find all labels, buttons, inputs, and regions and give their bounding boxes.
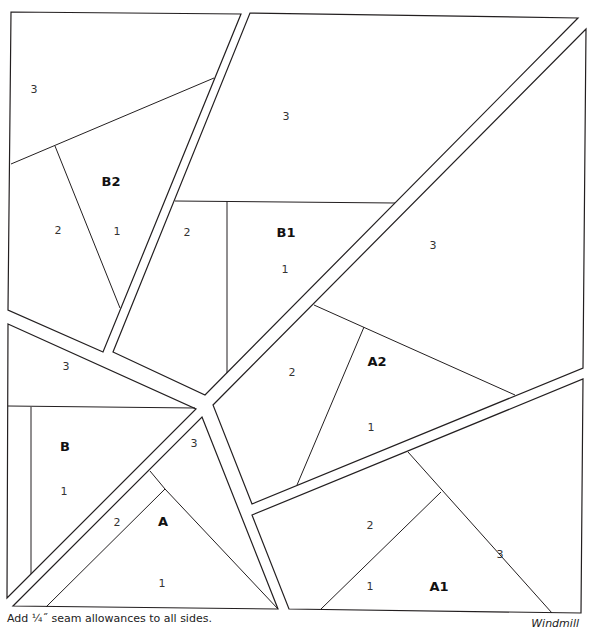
unit-b-section-3: 3: [63, 360, 70, 373]
unit-a2-section-1: 1: [368, 421, 375, 434]
unit-a2-section-3: 3: [430, 239, 437, 252]
unit-b1-section-2: 2: [184, 226, 191, 239]
unit-a2-label: A2: [367, 354, 386, 369]
unit-b2-section-2: 2: [55, 224, 62, 237]
unit-b-section-1: 1: [61, 485, 68, 498]
unit-b1-label: B1: [277, 225, 296, 240]
unit-a-label: A: [158, 514, 168, 529]
unit-a-section-1: 1: [159, 577, 166, 590]
unit-a1-section-1: 1: [367, 580, 374, 593]
unit-b2-label: B2: [102, 174, 121, 189]
unit-b1-section-3: 3: [283, 110, 290, 123]
unit-a1-section-3: 3: [497, 548, 504, 561]
unit-b1-section-1: 1: [282, 263, 289, 276]
unit-a-section-2: 2: [114, 516, 121, 529]
unit-b-label: B: [60, 439, 70, 454]
unit-a-section-3: 3: [191, 437, 198, 450]
foundation-pattern: 3 B2 2 1 3 2 B1 1 3 2 A2 1 3 B 1 3: [0, 0, 593, 634]
unit-a1-label: A1: [429, 579, 448, 594]
unit-b2-section-1: 1: [114, 225, 121, 238]
unit-a1-section-2: 2: [367, 519, 374, 532]
unit-b2-section-3: 3: [31, 83, 38, 96]
seam-allowance-note: Add ¼˝ seam allowances to all sides.: [7, 612, 212, 625]
pattern-caption: Windmill: [531, 617, 579, 630]
unit-a2-section-2: 2: [289, 366, 296, 379]
